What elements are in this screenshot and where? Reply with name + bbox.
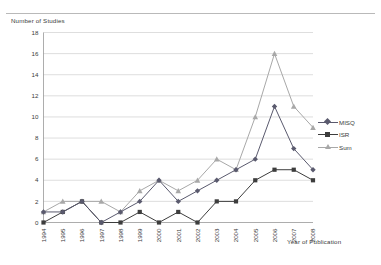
legend-marker-triangle-icon bbox=[318, 142, 338, 152]
y-tick-label: 2 bbox=[35, 198, 39, 205]
legend-item-isr[interactable]: ISR bbox=[318, 129, 374, 142]
legend-marker-diamond-icon bbox=[318, 117, 338, 127]
data-point-square bbox=[253, 178, 257, 182]
x-axis-title: Year of Publication bbox=[287, 238, 341, 245]
legend-label-isr: ISR bbox=[338, 131, 349, 138]
data-point-triangle bbox=[291, 104, 297, 109]
y-tick-labels-group: 024681012141618 bbox=[32, 29, 39, 226]
x-tick-label: 1997 bbox=[98, 228, 105, 242]
data-point-diamond bbox=[214, 178, 219, 183]
data-point-square bbox=[215, 199, 219, 203]
data-point-square bbox=[157, 220, 161, 224]
series-line-isr bbox=[44, 170, 314, 223]
data-point-square bbox=[272, 168, 276, 172]
data-point-diamond bbox=[195, 188, 200, 193]
chart-legend: MISQ ISR Sum bbox=[318, 116, 374, 154]
x-tick-label: 1996 bbox=[78, 228, 85, 242]
y-tick-label: 12 bbox=[32, 92, 39, 99]
y-tick-label: 18 bbox=[32, 29, 39, 36]
series-line-misq bbox=[44, 106, 314, 222]
x-tick-label: 2005 bbox=[252, 228, 259, 242]
y-tick-label: 6 bbox=[35, 155, 39, 162]
y-tick-label: 0 bbox=[35, 219, 39, 226]
x-tick-label: 1998 bbox=[117, 228, 124, 242]
y-tick-label: 10 bbox=[32, 113, 39, 120]
legend-label-misq: MISQ bbox=[338, 119, 355, 126]
data-point-square bbox=[292, 168, 296, 172]
legend-item-misq[interactable]: MISQ bbox=[318, 116, 374, 129]
x-tick-label: 1994 bbox=[40, 228, 47, 242]
legend-item-sum[interactable]: Sum bbox=[318, 141, 374, 154]
data-point-square bbox=[195, 220, 199, 224]
x-tick-label: 1999 bbox=[136, 228, 143, 242]
data-point-square bbox=[41, 220, 45, 224]
y-tick-label: 16 bbox=[32, 50, 39, 57]
series-sum bbox=[41, 51, 316, 215]
data-point-square bbox=[311, 178, 315, 182]
data-point-square bbox=[118, 220, 122, 224]
y-tick-label: 8 bbox=[35, 134, 39, 141]
data-point-diamond bbox=[272, 104, 277, 109]
legend-label-sum: Sum bbox=[338, 144, 352, 151]
y-tick-label: 14 bbox=[32, 71, 39, 78]
data-point-square bbox=[234, 199, 238, 203]
x-tick-label: 2004 bbox=[232, 228, 239, 242]
x-tick-label: 2002 bbox=[194, 228, 201, 242]
series-isr bbox=[41, 168, 315, 225]
chart-container: Number of Studies 024681012141618 199419… bbox=[0, 0, 381, 265]
data-point-triangle bbox=[137, 188, 143, 193]
data-point-square bbox=[176, 210, 180, 214]
gridlines-group bbox=[44, 33, 314, 202]
x-tick-labels-group: 1994199519961997199819992000200120022003… bbox=[40, 228, 317, 242]
x-tick-label: 1995 bbox=[59, 228, 66, 242]
data-point-square bbox=[138, 210, 142, 214]
x-tick-label: 2000 bbox=[155, 228, 162, 242]
data-point-triangle bbox=[175, 188, 181, 193]
x-tick-label: 2006 bbox=[271, 228, 278, 242]
x-tick-label: 2003 bbox=[213, 228, 220, 242]
x-tick-label: 2001 bbox=[175, 228, 182, 242]
series-misq bbox=[41, 104, 316, 226]
data-point-diamond bbox=[253, 156, 258, 161]
legend-marker-square-icon bbox=[318, 130, 338, 140]
y-tick-label: 4 bbox=[35, 176, 39, 183]
